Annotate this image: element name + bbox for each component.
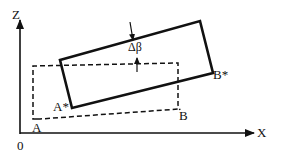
corner-b-star-label: B* — [213, 68, 228, 81]
corner-a-star-label: A* — [53, 100, 69, 113]
z-axis-label: Z — [12, 8, 20, 21]
delta-beta-label: Δβ — [128, 41, 142, 53]
delta-beta-arrow-down — [130, 22, 133, 40]
corner-a-label: A — [32, 121, 41, 134]
corner-b-label: B — [179, 109, 188, 122]
x-axis-label: X — [257, 126, 266, 139]
rotation-diagram: Z X 0 A B A* B* Δβ — [0, 0, 283, 155]
origin-label: 0 — [17, 139, 24, 152]
